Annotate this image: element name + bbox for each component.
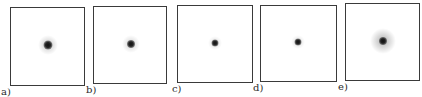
panel-e-label: e) — [338, 82, 348, 92]
panel-a-spot — [44, 41, 53, 50]
panel-d-label: d) — [253, 83, 263, 93]
panel-c-label: c) — [172, 84, 182, 94]
panel-d-spot — [295, 39, 302, 46]
panel-b-label: b) — [86, 85, 96, 95]
figure-panel-row: a) b) c) d) e) — [0, 0, 422, 97]
panel-c-spot — [212, 40, 219, 47]
panel-b-spot — [127, 40, 135, 48]
panel-e-spot — [379, 37, 387, 45]
panel-a-label: a) — [1, 87, 11, 97]
